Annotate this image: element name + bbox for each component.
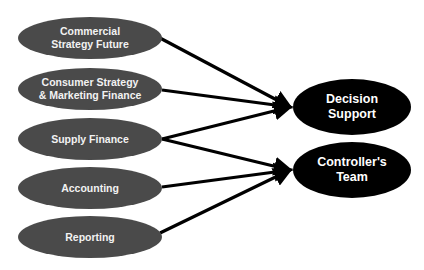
edge-supply-to-decision-support [162,107,290,139]
label-decision-support-line1: Decision [326,92,378,107]
edge-commercial-to-decision-support [160,38,290,107]
label-reporting-text: Reporting [65,231,115,244]
label-commercial-line1: Commercial [60,25,120,38]
label-supply-text: Supply Finance [51,133,129,146]
label-reporting: Reporting [18,216,162,258]
label-controllers-team: Controller's Team [293,142,411,198]
edge-supply-to-controllers-team [162,139,290,170]
label-decision-support: Decision Support [293,79,411,135]
edges [160,38,290,233]
label-commercial: Commercial Strategy Future [18,17,162,59]
label-accounting-text: Accounting [61,182,119,195]
label-supply: Supply Finance [18,118,162,160]
label-controllers-team-line2: Team [336,170,368,185]
label-controllers-team-line1: Controller's [317,155,387,170]
label-accounting: Accounting [18,167,162,209]
label-commercial-line2: Strategy Future [51,38,129,51]
label-decision-support-line2: Support [328,107,376,122]
label-consumer-line1: Consumer Strategy [42,76,139,89]
label-consumer: Consumer Strategy & Marketing Finance [18,68,162,110]
label-consumer-line2: & Marketing Finance [39,89,142,102]
